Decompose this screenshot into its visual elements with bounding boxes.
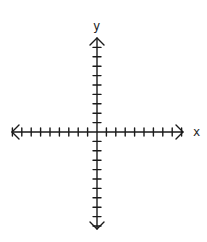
y-axis-label: y [93,19,100,33]
x-axis-label: x [193,125,200,139]
coordinate-plane: x y [0,0,207,242]
